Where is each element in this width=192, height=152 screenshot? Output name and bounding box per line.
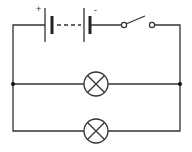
junction-left: [11, 82, 15, 86]
switch-contact-left: [121, 22, 126, 27]
junction-right: [178, 82, 182, 86]
battery-plate-negative-1: [51, 16, 54, 34]
negative-terminal-label: -: [94, 5, 97, 15]
switch-contact-right: [149, 22, 154, 27]
positive-terminal-label: +: [36, 4, 41, 14]
battery-plate-negative-2: [89, 16, 92, 34]
battery: + -: [36, 4, 97, 42]
circuit-diagram: + -: [0, 0, 192, 152]
lamp-2: [84, 119, 108, 143]
lamp-1: [84, 72, 108, 96]
switch-lever: [126, 16, 145, 24]
switch: [121, 16, 154, 28]
